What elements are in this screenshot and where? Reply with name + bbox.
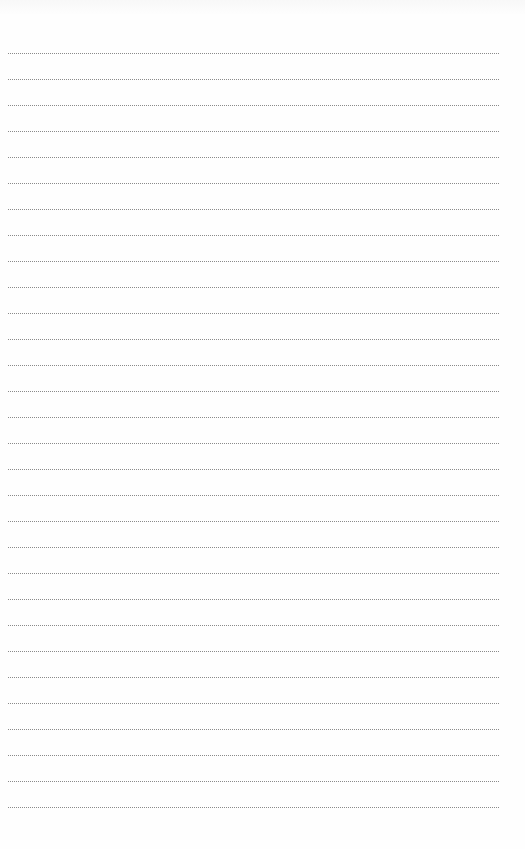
ruled-line [8,469,499,470]
lined-page [0,0,525,849]
ruled-line [8,157,499,158]
ruled-line [8,781,499,782]
faint-header-bleed [0,0,525,14]
ruled-line [8,547,499,548]
ruled-line [8,365,499,366]
ruled-line [8,807,499,808]
ruled-line [8,209,499,210]
ruled-line [8,495,499,496]
ruled-line [8,287,499,288]
ruled-line [8,729,499,730]
ruled-line [8,677,499,678]
ruled-line [8,651,499,652]
ruled-line [8,599,499,600]
ruled-line [8,625,499,626]
ruled-line [8,703,499,704]
ruled-line [8,79,499,80]
ruled-line [8,105,499,106]
ruled-line [8,417,499,418]
ruled-line [8,235,499,236]
ruled-line [8,443,499,444]
ruled-line [8,755,499,756]
ruled-line [8,183,499,184]
ruled-line [8,261,499,262]
ruled-line [8,53,499,54]
ruled-line [8,573,499,574]
ruled-line [8,339,499,340]
ruled-line [8,131,499,132]
ruled-line [8,521,499,522]
ruled-line [8,313,499,314]
ruled-line [8,391,499,392]
